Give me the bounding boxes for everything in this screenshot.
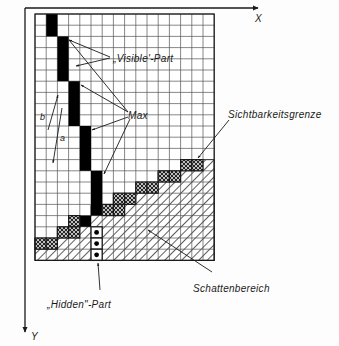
visible-cell [46, 14, 57, 36]
boundary-cell [113, 204, 124, 215]
boundary-cell [136, 182, 147, 193]
boundary-cell [69, 216, 80, 227]
label-sichtbarkeitsgrenze: Sichtbarkeitsgrenze [228, 109, 322, 120]
figure-canvas: X Y [0, 0, 339, 346]
hidden-cell-dot [94, 230, 99, 235]
hidden-cell-dot [94, 252, 99, 257]
label-b: b [40, 112, 45, 122]
boundary-cell [158, 171, 169, 182]
label-schattenbereich: Schattenbereich [193, 283, 270, 294]
visible-cell [91, 171, 102, 216]
boundary-cell [169, 171, 180, 182]
boundary-cell [125, 193, 136, 204]
hidden-cell-dot [94, 241, 99, 246]
label-hidden-part: „Hidden"-Part [46, 299, 112, 310]
visible-cell [69, 81, 80, 126]
boundary-cell [35, 238, 46, 249]
visible-cell [57, 36, 68, 81]
visible-cell [80, 126, 91, 171]
label-a: a [60, 133, 65, 143]
boundary-cell [113, 193, 124, 204]
x-axis-label: X [254, 13, 262, 24]
hidden-part-cells [91, 227, 102, 261]
boundary-cell [46, 238, 57, 249]
boundary-cell [57, 227, 68, 238]
label-visible-part: „Visible'-Part [112, 53, 174, 64]
boundary-cell [181, 160, 192, 171]
boundary-cell [147, 182, 158, 193]
boundary-cell [192, 160, 203, 171]
label-max: Max [128, 110, 148, 121]
visible-cell [80, 216, 91, 227]
boundary-cell [69, 227, 80, 238]
boundary-cell [102, 204, 113, 215]
diagram-svg: X Y [0, 0, 339, 346]
